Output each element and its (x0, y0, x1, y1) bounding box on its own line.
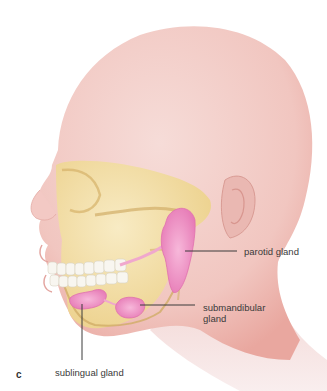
label-sublingual-gland: sublingual gland (55, 367, 124, 378)
label-submandibular-line1: submandibular (203, 302, 265, 313)
head-anatomy-drawing (0, 0, 327, 391)
label-parotid-gland: parotid gland (244, 246, 299, 257)
salivary-gland-illustration (0, 0, 327, 391)
label-submandibular-line2: gland (203, 313, 226, 324)
panel-letter: c (16, 369, 22, 380)
